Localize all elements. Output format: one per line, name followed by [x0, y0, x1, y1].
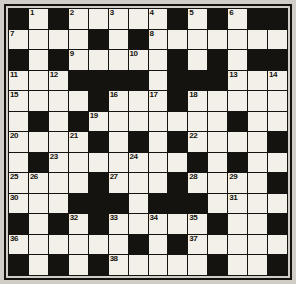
grid-open-cell[interactable] [109, 30, 128, 50]
grid-open-cell[interactable] [49, 132, 68, 152]
grid-open-cell[interactable] [49, 194, 68, 214]
grid-open-cell[interactable] [268, 30, 287, 50]
grid-open-cell[interactable] [69, 173, 88, 193]
grid-open-cell[interactable] [168, 255, 187, 275]
grid-open-cell[interactable] [228, 255, 247, 275]
grid-open-cell[interactable] [69, 153, 88, 173]
grid-open-cell[interactable] [248, 173, 267, 193]
grid-open-cell[interactable] [69, 255, 88, 275]
grid-open-cell[interactable]: 30 [9, 194, 28, 214]
grid-open-cell[interactable] [248, 235, 267, 255]
grid-open-cell[interactable] [168, 30, 187, 50]
grid-open-cell[interactable]: 3 [109, 9, 128, 29]
grid-open-cell[interactable]: 1 [29, 9, 48, 29]
grid-open-cell[interactable] [129, 112, 148, 132]
grid-open-cell[interactable]: 33 [109, 214, 128, 234]
grid-open-cell[interactable] [109, 132, 128, 152]
grid-open-cell[interactable] [29, 30, 48, 50]
grid-open-cell[interactable]: 22 [188, 132, 207, 152]
grid-open-cell[interactable]: 4 [149, 9, 168, 29]
grid-open-cell[interactable]: 26 [29, 173, 48, 193]
grid-open-cell[interactable] [49, 173, 68, 193]
grid-open-cell[interactable]: 9 [69, 50, 88, 70]
grid-open-cell[interactable]: 14 [268, 71, 287, 91]
grid-open-cell[interactable] [149, 132, 168, 152]
grid-open-cell[interactable] [208, 235, 227, 255]
grid-open-cell[interactable] [109, 153, 128, 173]
grid-open-cell[interactable]: 6 [228, 9, 247, 29]
grid-open-cell[interactable] [268, 153, 287, 173]
grid-open-cell[interactable] [208, 132, 227, 152]
grid-open-cell[interactable]: 8 [149, 30, 168, 50]
grid-open-cell[interactable] [109, 50, 128, 70]
grid-open-cell[interactable]: 27 [109, 173, 128, 193]
grid-open-cell[interactable] [129, 91, 148, 111]
grid-open-cell[interactable]: 7 [9, 30, 28, 50]
grid-open-cell[interactable] [89, 235, 108, 255]
grid-open-cell[interactable]: 16 [109, 91, 128, 111]
grid-open-cell[interactable]: 13 [228, 71, 247, 91]
grid-open-cell[interactable] [168, 153, 187, 173]
grid-open-cell[interactable] [208, 153, 227, 173]
grid-open-cell[interactable] [29, 194, 48, 214]
grid-open-cell[interactable]: 28 [188, 173, 207, 193]
grid-open-cell[interactable] [29, 50, 48, 70]
grid-open-cell[interactable] [248, 91, 267, 111]
grid-open-cell[interactable] [208, 91, 227, 111]
grid-open-cell[interactable] [109, 112, 128, 132]
grid-open-cell[interactable]: 2 [69, 9, 88, 29]
grid-open-cell[interactable] [168, 214, 187, 234]
grid-open-cell[interactable] [228, 132, 247, 152]
grid-open-cell[interactable] [208, 30, 227, 50]
grid-open-cell[interactable] [208, 112, 227, 132]
grid-open-cell[interactable] [29, 235, 48, 255]
grid-open-cell[interactable] [188, 255, 207, 275]
grid-open-cell[interactable] [248, 153, 267, 173]
grid-open-cell[interactable] [89, 50, 108, 70]
grid-open-cell[interactable]: 29 [228, 173, 247, 193]
grid-open-cell[interactable] [228, 50, 247, 70]
crossword-grid[interactable]: 1234567891011121314151617181920212223242… [8, 8, 288, 276]
grid-open-cell[interactable]: 38 [109, 255, 128, 275]
grid-open-cell[interactable] [89, 153, 108, 173]
grid-open-cell[interactable] [129, 194, 148, 214]
grid-open-cell[interactable] [129, 214, 148, 234]
grid-open-cell[interactable] [149, 71, 168, 91]
grid-open-cell[interactable] [208, 173, 227, 193]
grid-open-cell[interactable] [129, 173, 148, 193]
grid-open-cell[interactable]: 32 [69, 214, 88, 234]
grid-open-cell[interactable] [129, 255, 148, 275]
grid-open-cell[interactable] [29, 91, 48, 111]
grid-open-cell[interactable]: 36 [9, 235, 28, 255]
grid-open-cell[interactable] [149, 255, 168, 275]
grid-open-cell[interactable]: 34 [149, 214, 168, 234]
grid-open-cell[interactable] [149, 153, 168, 173]
grid-open-cell[interactable] [228, 30, 247, 50]
grid-open-cell[interactable] [268, 112, 287, 132]
grid-open-cell[interactable] [248, 255, 267, 275]
grid-open-cell[interactable] [248, 132, 267, 152]
grid-open-cell[interactable] [268, 235, 287, 255]
grid-open-cell[interactable] [29, 255, 48, 275]
grid-open-cell[interactable] [29, 132, 48, 152]
grid-open-cell[interactable] [129, 9, 148, 29]
grid-open-cell[interactable] [188, 50, 207, 70]
grid-open-cell[interactable] [89, 9, 108, 29]
grid-open-cell[interactable]: 20 [9, 132, 28, 152]
grid-open-cell[interactable]: 5 [188, 9, 207, 29]
grid-open-cell[interactable] [9, 112, 28, 132]
grid-open-cell[interactable] [49, 91, 68, 111]
grid-open-cell[interactable] [168, 112, 187, 132]
grid-open-cell[interactable]: 19 [89, 112, 108, 132]
grid-open-cell[interactable] [149, 235, 168, 255]
grid-open-cell[interactable] [208, 194, 227, 214]
grid-open-cell[interactable]: 10 [129, 50, 148, 70]
grid-open-cell[interactable] [248, 214, 267, 234]
grid-open-cell[interactable] [149, 112, 168, 132]
grid-open-cell[interactable]: 11 [9, 71, 28, 91]
grid-open-cell[interactable] [49, 235, 68, 255]
grid-open-cell[interactable] [69, 30, 88, 50]
grid-open-cell[interactable] [69, 91, 88, 111]
grid-open-cell[interactable]: 12 [49, 71, 68, 91]
grid-open-cell[interactable] [149, 173, 168, 193]
